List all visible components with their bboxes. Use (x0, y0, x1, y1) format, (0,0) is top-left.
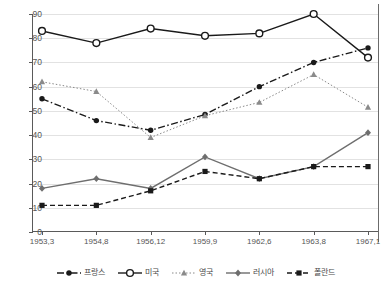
line-chart: 0102030405060708090 1953,31954,81956,121… (0, 0, 392, 295)
x-tick-label: 1967,1 (356, 238, 380, 246)
data-point (93, 175, 99, 182)
data-point (39, 79, 45, 85)
series-layer (32, 14, 378, 232)
plot-area: 0102030405060708090 1953,31954,81956,121… (32, 14, 378, 232)
data-point (311, 60, 316, 65)
data-point (202, 32, 209, 39)
data-point (39, 185, 45, 192)
legend-label: 폴란드 (314, 269, 335, 277)
data-point (94, 118, 99, 123)
legend-swatch (172, 268, 196, 278)
legend-item-프랑스[interactable]: 프랑스 (57, 268, 105, 278)
x-tick-label: 1953,3 (30, 238, 54, 246)
legend-label: 프랑스 (84, 269, 105, 277)
legend-label: 영국 (199, 269, 213, 277)
legend-item-러시아[interactable]: 러시아 (226, 268, 274, 278)
series-4 (39, 129, 371, 192)
data-point (147, 25, 154, 32)
data-point (39, 96, 44, 101)
data-point (148, 128, 153, 133)
legend-label: 미국 (145, 269, 159, 277)
data-point (256, 30, 263, 37)
data-point (365, 45, 370, 50)
data-point (365, 104, 371, 110)
x-tick-label: 1962,6 (247, 238, 271, 246)
data-point (94, 203, 99, 208)
data-point (39, 203, 44, 208)
legend-item-영국[interactable]: 영국 (172, 268, 213, 278)
legend-swatch (57, 268, 81, 278)
data-point (311, 71, 317, 77)
data-point (311, 164, 316, 169)
series-5 (39, 164, 370, 208)
data-point (202, 154, 208, 161)
data-point (148, 188, 153, 193)
series-line (42, 133, 368, 189)
legend-swatch (118, 268, 142, 278)
data-point (257, 84, 262, 89)
series-line (42, 75, 368, 138)
data-point (365, 54, 372, 61)
legend-swatch (226, 268, 250, 278)
data-point (257, 176, 262, 181)
chart-right-border (378, 4, 379, 242)
data-point (365, 164, 370, 169)
legend-swatch (287, 268, 311, 278)
series-2 (39, 11, 372, 61)
data-point (93, 40, 100, 47)
chart-legend: 프랑스미국영국러시아폴란드 (0, 268, 392, 278)
data-point (202, 169, 207, 174)
legend-item-미국[interactable]: 미국 (118, 268, 159, 278)
data-point (310, 11, 317, 18)
x-tick-label: 1954,8 (84, 238, 108, 246)
legend-label: 러시아 (253, 269, 274, 277)
x-tick-label: 1959,9 (193, 238, 217, 246)
series-3 (39, 71, 371, 140)
data-point (39, 28, 46, 35)
x-tick-label: 1956,12 (136, 238, 165, 246)
data-point (365, 129, 371, 136)
data-point (256, 99, 262, 105)
legend-item-폴란드[interactable]: 폴란드 (287, 268, 335, 278)
series-1 (39, 45, 370, 133)
x-tick-label: 1963,8 (301, 238, 325, 246)
